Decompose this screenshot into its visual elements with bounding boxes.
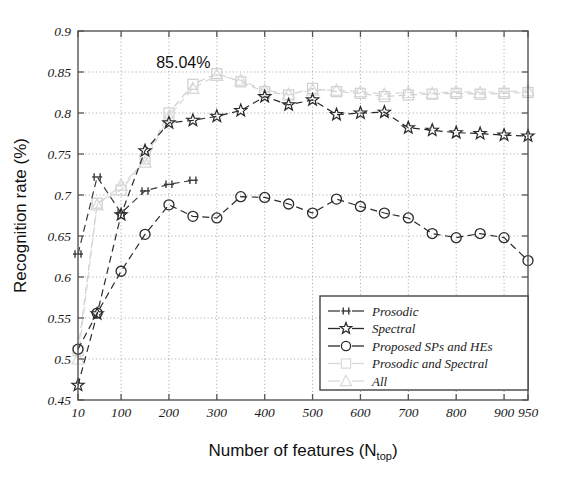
x-axis-title-subscript: top bbox=[377, 450, 392, 462]
x-tick-label: 100 bbox=[111, 405, 132, 420]
y-axis-title: Recognition rate (%) bbox=[11, 138, 30, 293]
x-tick-label: 10 bbox=[71, 405, 85, 420]
y-tick-label: 0.9 bbox=[54, 24, 71, 39]
x-tick-label: 950 bbox=[518, 405, 539, 420]
legend-label: All bbox=[371, 374, 388, 389]
y-tick-label: 0.7 bbox=[54, 188, 72, 203]
x-tick-label: 800 bbox=[446, 405, 467, 420]
figure-container: 0.450.50.550.60.650.70.750.80.850.910100… bbox=[0, 0, 569, 481]
x-tick-label: 600 bbox=[350, 405, 371, 420]
y-tick-label: 0.5 bbox=[54, 352, 71, 367]
y-tick-label: 0.85 bbox=[47, 65, 71, 80]
x-tick-label: 200 bbox=[159, 405, 180, 420]
x-tick-label: 400 bbox=[255, 405, 276, 420]
x-axis-title-tail: ) bbox=[392, 441, 398, 460]
y-tick-label: 0.8 bbox=[54, 106, 71, 121]
legend: ProsodicSpectralProposed SPs and HEsPros… bbox=[320, 296, 528, 390]
legend-label: Spectral bbox=[372, 321, 416, 336]
x-tick-label: 300 bbox=[206, 405, 228, 420]
x-tick-label: 500 bbox=[302, 405, 323, 420]
x-tick-label: 700 bbox=[398, 405, 419, 420]
legend-label: Prosodic bbox=[371, 304, 419, 319]
x-axis-title: Number of features (Ntop) bbox=[208, 441, 397, 462]
y-tick-label: 0.55 bbox=[47, 311, 71, 326]
y-tick-label: 0.45 bbox=[47, 393, 71, 408]
peak-annotation: 85.04% bbox=[156, 54, 210, 71]
y-tick-label: 0.75 bbox=[47, 147, 71, 162]
legend-label: Proposed SPs and HEs bbox=[371, 339, 493, 354]
y-tick-label: 0.65 bbox=[47, 229, 71, 244]
recognition-rate-chart: 0.450.50.550.60.650.70.750.80.850.910100… bbox=[0, 0, 569, 481]
legend-label: Prosodic and Spectral bbox=[371, 356, 488, 371]
y-tick-label: 0.6 bbox=[54, 270, 71, 285]
x-tick-label: 900 bbox=[494, 405, 515, 420]
